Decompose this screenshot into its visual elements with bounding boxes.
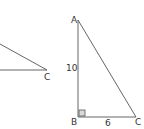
vertex-c-label: C [135, 117, 141, 127]
side-ab-length-label: 10 [66, 63, 78, 73]
vertex-b-label: B [71, 117, 77, 127]
side-ac [78, 20, 136, 117]
left-triangle-fragment: C [0, 44, 50, 82]
left-hypotenuse [0, 44, 47, 70]
side-bc-length-label: 6 [105, 118, 111, 128]
diagram-canvas: C A B C 10 6 [0, 0, 144, 129]
right-triangle-abc: A B C 10 6 [66, 15, 141, 128]
left-vertex-c-label: C [44, 72, 50, 82]
right-angle-marker-icon [79, 110, 85, 116]
vertex-a-label: A [71, 15, 78, 25]
